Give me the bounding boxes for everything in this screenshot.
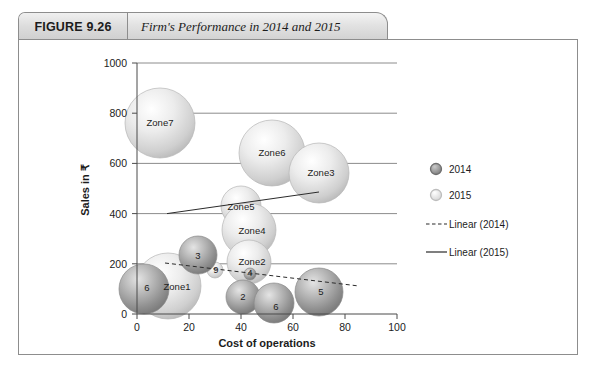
label-zone5: Zone5 <box>228 201 255 212</box>
label-5: 5 <box>318 286 323 297</box>
y-axis-title: Sales in ₹ <box>79 164 91 216</box>
y-tick-200: 200 <box>109 258 127 270</box>
chart-legend: 2014 2015 Linear (2014) Linear (2015) <box>426 164 508 258</box>
chart-svg: Zone7 Zone6 Zone3 Zone5 Zone4 Zone2 Zone… <box>19 40 579 356</box>
figure-frame: Zone7 Zone6 Zone3 Zone5 Zone4 Zone2 Zone… <box>18 39 578 355</box>
y-tick-400: 400 <box>109 208 127 220</box>
label-zone6: Zone6 <box>259 147 286 158</box>
figure-number: FIGURE 9.26 <box>19 13 128 40</box>
label-6a: 6 <box>144 282 149 293</box>
figure-caption-bar: FIGURE 9.26 Firm's Performance in 2014 a… <box>18 12 388 40</box>
legend-marker-2015-icon <box>431 190 442 201</box>
x-tick-60: 60 <box>287 321 299 333</box>
y-tick-1000: 1000 <box>104 57 128 69</box>
x-tick-40: 40 <box>235 321 247 333</box>
label-2: 2 <box>240 291 245 302</box>
y-tick-0: 0 <box>121 308 127 320</box>
label-4: 4 <box>247 267 252 278</box>
y-tick-800: 800 <box>109 107 127 119</box>
bubble-chart: Zone7 Zone6 Zone3 Zone5 Zone4 Zone2 Zone… <box>19 40 579 356</box>
legend-label-2015[interactable]: 2015 <box>449 190 472 201</box>
legend-label-2014[interactable]: 2014 <box>449 164 472 175</box>
label-zone7: Zone7 <box>147 117 174 128</box>
legend-label-linear-2014[interactable]: Linear (2014) <box>449 219 508 230</box>
x-tick-100: 100 <box>388 321 406 333</box>
label-zone3: Zone3 <box>308 167 335 178</box>
legend-marker-2014-icon <box>431 164 442 175</box>
label-zone1: Zone1 <box>164 281 191 292</box>
label-9: 9 <box>213 264 218 275</box>
label-3: 3 <box>195 250 200 261</box>
y-tick-600: 600 <box>109 157 127 169</box>
figure-title: Firm's Performance in 2014 and 2015 <box>128 19 341 35</box>
label-6b: 6 <box>273 301 278 312</box>
x-axis-title: Cost of operations <box>218 337 315 349</box>
x-tick-0: 0 <box>134 321 140 333</box>
x-tick-80: 80 <box>339 321 351 333</box>
legend-label-linear-2015[interactable]: Linear (2015) <box>449 247 508 258</box>
x-tick-20: 20 <box>183 321 195 333</box>
label-zone4: Zone4 <box>239 225 266 236</box>
label-zone2: Zone2 <box>239 256 266 267</box>
